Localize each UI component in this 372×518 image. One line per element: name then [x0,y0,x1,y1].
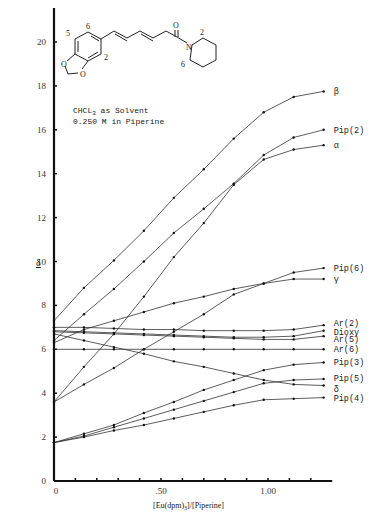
chart: 6 5 2 O O O N 2 6 CHCL3 as Solvent 0.250… [0,0,372,518]
data-point [203,400,205,402]
data-point [203,168,205,170]
data-point [233,404,235,406]
data-point [322,144,324,146]
atom-label: O [80,70,86,79]
data-point [322,278,324,280]
data-point [203,411,205,413]
data-point [83,287,85,289]
data-point [83,313,85,315]
atom-label: 2 [200,28,204,37]
atom-label: N [186,43,192,52]
data-point [263,158,265,160]
data-point [322,324,324,326]
data-point [263,348,265,350]
data-point [263,336,265,338]
data-point [53,320,55,322]
data-point [322,384,324,386]
data-point [113,348,115,350]
data-point [203,313,205,315]
data-point [203,295,205,297]
y-tick-label: 6 [42,344,47,354]
data-point [233,329,235,331]
data-point [322,267,324,269]
atom-label: 6 [181,60,185,69]
data-point [233,137,235,139]
data-point [263,338,265,340]
series-line [54,334,324,386]
data-point [53,342,55,344]
atom-label: O [173,21,179,30]
data-point [143,417,145,419]
y-tick-label: 4 [42,388,47,398]
data-point [263,399,265,401]
data-point [143,352,145,354]
y-tick-label: 18 [37,81,47,91]
series-label: Ar(5) [334,335,360,345]
series-line [54,130,324,341]
data-point [233,379,235,381]
data-point [203,329,205,331]
data-point [322,335,324,337]
data-point [292,383,294,385]
data-point [203,348,205,350]
data-point [113,426,115,428]
data-point [322,378,324,380]
data-point [53,348,55,350]
data-point [143,328,145,330]
data-point [143,348,145,350]
data-point [113,320,115,322]
data-point [233,348,235,350]
data-point [292,271,294,273]
piperine-structure: 6 5 2 O O O N 2 6 [61,21,216,79]
data-point [263,329,265,331]
data-point [292,136,294,138]
series-line [54,379,324,443]
data-point [173,360,175,362]
series-label: Pip(3) [334,358,365,368]
data-point [263,369,265,371]
data-point [233,391,235,393]
data-point [233,288,235,290]
data-point [143,260,145,262]
data-point [173,335,175,337]
y-tick-label: 16 [37,125,47,135]
data-point [203,366,205,368]
data-point [233,337,235,339]
data-point [113,333,115,335]
data-point [322,329,324,331]
data-point [292,278,294,280]
series-line [54,398,324,443]
data-point [53,401,55,403]
series-label: Pip(2) [334,126,365,136]
data-point [292,335,294,337]
series-label: Pip(4) [334,394,365,404]
y-tick-label: 2 [42,432,47,442]
data-point [322,396,324,398]
annotation-line-2: 0.250 M in Piperine [73,117,164,126]
series-line [54,325,324,330]
x-axis-label: [Eu(dpm)3]/[Piperine] [153,501,224,511]
data-point [83,332,85,334]
data-point [173,302,175,304]
data-point [53,339,55,341]
data-point [113,288,115,290]
y-tick-label: 0 [42,476,47,486]
data-point [113,424,115,426]
data-point [292,96,294,98]
data-point [203,208,205,210]
data-point [233,183,235,185]
y-tick-label: 8 [42,300,47,310]
data-point [173,197,175,199]
annotation-line-1-rest: as Solvent [96,106,149,115]
data-point [263,379,265,381]
data-point [173,331,175,333]
series-label: α [334,141,339,151]
data-point [83,436,85,438]
data-point [233,372,235,374]
data-point [292,379,294,381]
atom-label: 2 [104,53,108,62]
series-group: βPip(2)αPip(6)γAr(2)DioxyAr(5)Ar(6)Pip(3… [53,87,364,443]
data-point [173,256,175,258]
data-point [173,232,175,234]
data-point [53,333,55,335]
